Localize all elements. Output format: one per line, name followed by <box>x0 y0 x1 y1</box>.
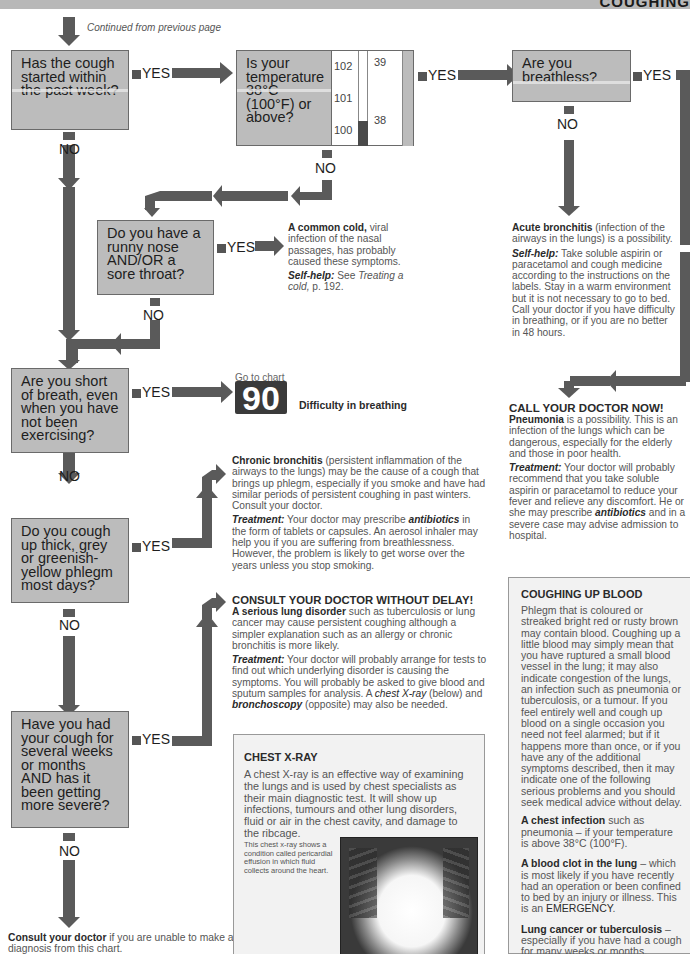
no-connector <box>63 609 75 617</box>
question-phlegm: Do you cough up thick, grey or greenish-… <box>11 518 129 603</box>
question-text: Do you cough up thick, grey or greenish-… <box>21 523 113 593</box>
thermometer-edge <box>402 51 413 146</box>
no-label-q5[interactable]: NO <box>59 468 80 484</box>
no-label-q1[interactable]: NO <box>59 141 80 157</box>
chest-xray-caption: This chest x-ray shows a condition calle… <box>244 841 334 875</box>
outcome-pneumonia: CALL YOUR DOCTOR NOW! Pneumonia is a pos… <box>509 402 690 544</box>
coughing-blood-infobox: COUGHING UP BLOOD Phlegm that is coloure… <box>508 577 690 954</box>
yes-label-q2[interactable]: YES <box>418 67 456 83</box>
yes-label-q7[interactable]: YES <box>132 731 170 747</box>
alert-call-doctor: CALL YOUR DOCTOR NOW! <box>509 402 690 414</box>
blood-cause-chest-infection: A chest infection such as pneumonia – if… <box>521 815 682 849</box>
yes-label-q3[interactable]: YES <box>633 67 671 83</box>
blood-cause-cancer-tb: Lung cancer or tuberculosis – especially… <box>521 924 682 954</box>
question-temperature: Is your temperature 38°C (100°F) or abov… <box>236 50 332 146</box>
no-label-q7[interactable]: NO <box>59 843 80 859</box>
coughing-blood-body: Phlegm that is coloured or streaked brig… <box>521 605 682 808</box>
question-runny-nose: Do you have a runny nose AND/OR a sore t… <box>97 220 214 295</box>
box-highlight-stripe <box>12 89 128 92</box>
no-label-q4[interactable]: NO <box>143 307 164 323</box>
box-highlight-stripe <box>513 81 630 84</box>
thermometer-scale: 102 101 100 39 38 <box>332 50 414 146</box>
outcome-serious-lung-disorder: CONSULT YOUR DOCTOR WITHOUT DELAY! A ser… <box>232 594 490 714</box>
continued-note: Continued from previous page <box>87 22 221 33</box>
question-short-of-breath: Are you short of breath, even when you h… <box>11 368 129 453</box>
chest-xray-infobox: CHEST X-RAY A chest X-ray is an effectiv… <box>233 734 485 954</box>
ribs-left <box>349 848 377 918</box>
goto-chart-label[interactable]: Difficulty in breathing <box>299 399 407 411</box>
yes-label-q4[interactable]: YES <box>217 239 255 255</box>
outcome-chronic-bronchitis: Chronic bronchitis (persistent inflammat… <box>232 455 487 574</box>
tick-f-100: 100 <box>334 124 352 136</box>
thermometer-mercury <box>358 121 368 146</box>
question-text: Do you have a runny nose AND/OR a sore t… <box>107 225 201 282</box>
question-breathless: Are you breathless? <box>512 50 631 102</box>
no-connector <box>150 298 160 306</box>
tick-f-101: 101 <box>334 92 352 104</box>
alert-consult-doctor: CONSULT YOUR DOCTOR WITHOUT DELAY! <box>232 594 490 606</box>
outcome-common-cold: A common cold, viral infection of the na… <box>288 222 416 296</box>
tick-c-38: 38 <box>374 114 386 126</box>
tick-c-39: 39 <box>374 56 386 68</box>
no-label-q2[interactable]: NO <box>315 160 336 176</box>
chest-xray-body: A chest X-ray is an effective way of exa… <box>244 769 474 840</box>
tick-f-102: 102 <box>334 60 352 72</box>
box-highlight-stripe <box>237 89 331 92</box>
chart-90-link[interactable]: 90 <box>235 381 287 414</box>
no-connector <box>322 150 332 158</box>
chest-xray-title: CHEST X-RAY <box>244 751 474 763</box>
question-text: Have you had your cough for several week… <box>21 716 114 813</box>
no-connector <box>564 106 574 114</box>
outcome-acute-bronchitis: Acute bronchitis (infection of the airwa… <box>512 222 677 341</box>
chest-xray-image <box>340 837 478 954</box>
no-label-q3[interactable]: NO <box>557 116 578 132</box>
blood-cause-clot: A blood clot in the lung – which is most… <box>521 858 682 914</box>
no-connector <box>63 132 75 140</box>
question-cough-weeks: Have you had your cough for several week… <box>11 711 129 828</box>
question-cough-started-week: Has the cough started within the past we… <box>11 50 129 130</box>
coughing-blood-title: COUGHING UP BLOOD <box>521 588 682 600</box>
outcome-consult-doctor: Consult your doctor if you are unable to… <box>8 932 238 954</box>
yes-label-q6[interactable]: YES <box>132 538 170 554</box>
no-label-q6[interactable]: NO <box>59 617 80 633</box>
yes-label-q1[interactable]: YES <box>132 65 170 81</box>
no-connector <box>63 459 75 467</box>
ribs-right <box>443 848 469 918</box>
yes-label-q5[interactable]: YES <box>132 384 170 400</box>
question-text: Are you short of breath, even when you h… <box>21 373 119 443</box>
no-connector <box>63 833 75 841</box>
